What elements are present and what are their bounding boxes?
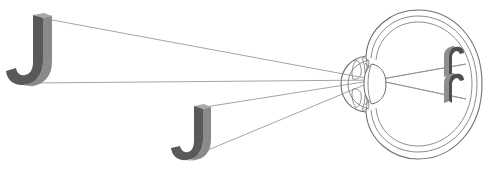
retinal-image-lower-face — [449, 74, 464, 103]
object-near-front-face — [171, 106, 203, 160]
ray-near-bottom — [196, 80, 466, 155]
ray-near-top — [199, 64, 466, 108]
ray-bundle — [33, 17, 466, 155]
retina-outline — [376, 22, 472, 146]
choroid-outline — [371, 16, 477, 152]
object-far-front-face — [6, 15, 43, 85]
object-far-letter-j — [6, 13, 52, 86]
retinal-image-upper-face — [449, 47, 464, 77]
ray-far-bottom — [33, 64, 466, 83]
retinal-image-lower — [444, 73, 464, 103]
eye-image-formation-diagram: Image formation by the human eye Two upr… — [0, 0, 492, 169]
retinal-image-upper — [444, 46, 464, 77]
lens — [364, 64, 386, 104]
object-near-letter-j — [171, 104, 211, 160]
ray-far-top — [36, 17, 466, 99]
eye-cross-section — [341, 10, 482, 159]
diagram-canvas — [0, 0, 492, 169]
